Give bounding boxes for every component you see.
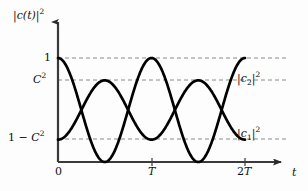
y-axis-label: |c(t)|2 bbox=[13, 10, 44, 21]
curve-c1-squared bbox=[58, 58, 245, 162]
curve-c2-squared bbox=[58, 80, 245, 139]
oscillation-figure: |c(t)|2 1 C2 1 − C2 0 T 2T t |c2|2 |c1|2 bbox=[0, 0, 308, 191]
x-tick-label-T: T bbox=[148, 166, 155, 177]
x-axis-label: t bbox=[292, 167, 296, 178]
x-tick-label-zero: 0 bbox=[55, 166, 62, 177]
y-tick-label-c-squared: C2 bbox=[33, 74, 46, 85]
curve-layer bbox=[58, 58, 245, 162]
curve-label-c2-squared: |c2|2 bbox=[237, 73, 260, 84]
x-tick-label-2T: 2T bbox=[237, 166, 251, 177]
plot-canvas bbox=[0, 0, 308, 191]
curve-label-c1-squared: |c1|2 bbox=[237, 128, 260, 139]
y-tick-label-one: 1 bbox=[44, 52, 51, 63]
y-tick-label-one-minus-c-squared: 1 − C2 bbox=[8, 132, 44, 143]
